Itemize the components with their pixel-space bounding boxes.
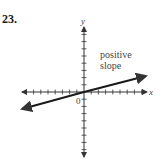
y-axis-label: y [80,16,85,26]
annotation-positive: positive [100,49,132,60]
x-axis-label: x [148,87,153,97]
annotation-slope: slope [100,60,122,71]
origin-label: 0 [76,96,81,106]
coordinate-plane: x y 0 positive slope [0,0,163,168]
